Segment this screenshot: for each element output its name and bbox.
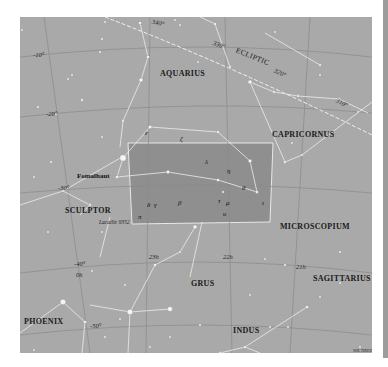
constellation-label-aquarius: AQUARIUS [160,69,205,78]
greek-label-gamma: γ [154,201,157,209]
ecliptic-line [105,17,372,135]
greek-label-epsilon: ε [145,129,148,137]
star-label-fomalhaut: Fomalhaut [77,172,110,180]
constellation-label-phoenix: PHOENIX [24,317,63,326]
dec-label-minus40: -40° [74,260,85,267]
constellation-label-microscopium: MICROSCOPIUM [280,222,350,231]
greek-label-upsilon: υ [223,210,226,218]
ra-label-23h: 23h [149,253,159,260]
greek-label-beta: β [178,199,182,207]
constellation-label-grus: GRUS [191,279,214,288]
greek-label-zeta: ζ [180,135,183,143]
greek-label-tau: τ [218,197,221,205]
star-label-lacaille-9352: Lacaille 9352 [99,219,129,225]
dec-label-minus20: -20° [46,110,57,117]
ra-label-0h: 0h [76,271,83,278]
constellation-label-sculptor: SCULPTOR [65,206,111,215]
greek-label-mu: μ [226,199,230,207]
dec-label-minus10: -10° [33,51,44,58]
greek-label-lambda: λ [205,158,208,166]
ra-label-22h: 22h [223,253,233,260]
dec-label-minus50: -50° [90,322,101,329]
map-credit: WIL TIRION [353,348,372,353]
ra-label-21h: 21h [296,263,306,270]
constellation-label-indus: INDUS [233,326,259,335]
fomalhaut-star [120,155,126,161]
star-map-graphics [20,17,372,353]
side-panel-edge [383,0,388,358]
greek-label-pi: π [138,213,142,221]
dec-label-minus30: -30° [58,184,69,191]
greek-label-theta: θ [242,184,245,192]
greek-label-iota: ι [262,199,264,207]
greek-label-delta: δ [147,201,150,209]
constellation-label-sagittarius: SAGITTARIUS [313,274,371,283]
greek-label-eta: η [227,167,230,175]
star-map: AQUARIUS CAPRICORNUS SCULPTOR MICROSCOPI… [20,17,372,353]
highlight-region [128,143,273,224]
constellation-label-capricornus: CAPRICORNUS [272,130,334,139]
